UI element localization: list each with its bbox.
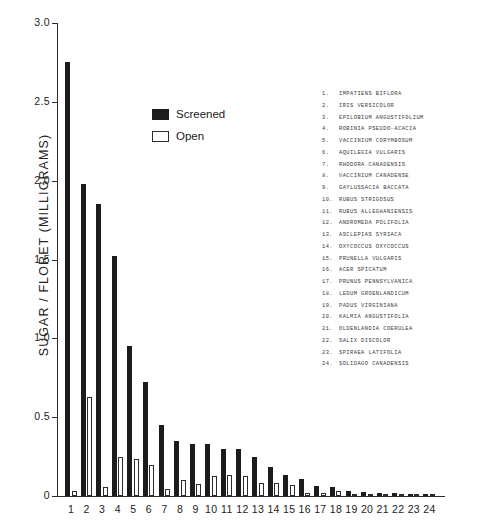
species-name: ROBINIA PSEUDO-ACACIA xyxy=(339,127,492,132)
bar-screened xyxy=(221,449,226,496)
species-number: 24. xyxy=(322,362,339,367)
y-tick-label: 1.5 xyxy=(26,253,50,265)
x-tick-label: 3 xyxy=(99,503,105,515)
bar-open xyxy=(87,397,92,496)
bar-screened xyxy=(314,486,319,496)
species-number: 14. xyxy=(322,245,339,250)
y-tick-label: 1.0 xyxy=(26,331,50,343)
legend-swatch-screened-icon xyxy=(152,109,169,120)
bar-screened xyxy=(174,441,179,496)
species-number: 23. xyxy=(322,351,339,356)
species-number: 6. xyxy=(322,151,339,156)
species-name: PADUS VIRGINIANA xyxy=(339,304,492,309)
y-tick-label: 2.0 xyxy=(26,174,50,186)
species-number: 10. xyxy=(322,198,339,203)
bar-open xyxy=(305,493,310,496)
legend-swatch-open-icon xyxy=(152,131,169,142)
bar-screened xyxy=(423,494,428,496)
species-name: SOLIDAGO CANADENSIS xyxy=(339,362,492,367)
bar-open xyxy=(165,489,170,496)
species-name: EPILOBIUM ANGUSTIFOLIUM xyxy=(339,116,492,121)
species-name: ASCLEPIAS SYRIACA xyxy=(339,233,492,238)
bar-screened xyxy=(392,493,397,496)
species-number: 3. xyxy=(322,116,339,121)
species-name: ANDROMEDA POLIFOLIA xyxy=(339,221,492,226)
bar-open xyxy=(414,494,419,496)
bar-open xyxy=(196,484,201,496)
bar-screened xyxy=(330,487,335,496)
species-number: 9. xyxy=(322,186,339,191)
species-name: VACCINIUM CANADENSE xyxy=(339,174,492,179)
bar-open xyxy=(274,483,279,496)
bar-screened xyxy=(159,425,164,496)
bar-screened xyxy=(143,382,148,496)
bar-screened xyxy=(205,444,210,496)
bar-group: 5 xyxy=(126,23,140,496)
bar-screened xyxy=(299,479,304,496)
species-key-row: 18.LEDUM GROENLANDICUM xyxy=(322,292,492,304)
species-key-row: 13.ASCLEPIAS SYRIACA xyxy=(322,233,492,245)
bar-group: 2 xyxy=(80,23,94,496)
x-tick-label: 6 xyxy=(146,503,152,515)
bar-group: 10 xyxy=(204,23,218,496)
species-number: 12. xyxy=(322,221,339,226)
bar-screened xyxy=(377,493,382,496)
bar-screened xyxy=(127,346,132,496)
x-tick-label: 23 xyxy=(408,503,420,515)
species-key-list: 1.IMPATIENS BIFLORA2.IRIS VERSICOLOR3.EP… xyxy=(322,92,492,374)
species-key-row: 10.RUBUS STRIGOSUS xyxy=(322,198,492,210)
species-number: 4. xyxy=(322,127,339,132)
species-name: VACCINIUM CORYMBOSUM xyxy=(339,139,492,144)
species-number: 18. xyxy=(322,292,339,297)
y-tick-label: 0.5 xyxy=(26,410,50,422)
bar-group: 7 xyxy=(158,23,172,496)
y-tick-label: 2.5 xyxy=(26,95,50,107)
species-number: 19. xyxy=(322,304,339,309)
bar-screened xyxy=(283,475,288,496)
species-name: AQUILEGIA VULGARIS xyxy=(339,151,492,156)
x-tick-label: 1 xyxy=(68,503,74,515)
species-name: IRIS VERSICOLOR xyxy=(339,104,492,109)
bar-open xyxy=(399,494,404,496)
x-tick-label: 17 xyxy=(314,503,326,515)
bar-open xyxy=(321,493,326,496)
species-name: SALIX DISCOLOR xyxy=(339,339,492,344)
x-tick-label: 14 xyxy=(267,503,279,515)
bar-screened xyxy=(268,467,273,496)
bar-group: 16 xyxy=(298,23,312,496)
bar-open xyxy=(290,485,295,496)
species-name: ACER SPICATUM xyxy=(339,268,492,273)
bar-group: 12 xyxy=(235,23,249,496)
species-number: 11. xyxy=(322,210,339,215)
bar-group: 14 xyxy=(267,23,281,496)
species-key-row: 2.IRIS VERSICOLOR xyxy=(322,104,492,116)
species-name: OLDENLANDIA COERULEA xyxy=(339,327,492,332)
species-name: KALMIA ANGUSTIFOLIA xyxy=(339,315,492,320)
bar-open xyxy=(352,494,357,496)
x-tick-label: 8 xyxy=(177,503,183,515)
bar-group: 1 xyxy=(64,23,78,496)
bar-screened xyxy=(361,492,366,496)
bar-screened xyxy=(408,494,413,496)
species-number: 17. xyxy=(322,280,339,285)
bar-open xyxy=(383,494,388,496)
species-key-row: 14.OXYCOCCUS OXYCOCCUS xyxy=(322,245,492,257)
legend-item-screened: Screened xyxy=(152,108,225,120)
species-number: 7. xyxy=(322,163,339,168)
species-number: 20. xyxy=(322,315,339,320)
legend: Screened Open xyxy=(152,108,225,152)
x-tick-label: 5 xyxy=(130,503,136,515)
legend-label-screened: Screened xyxy=(176,108,225,120)
x-tick-label: 24 xyxy=(423,503,435,515)
bar-screened xyxy=(65,62,70,496)
species-key-row: 9.GAYLUSSACIA BACCATA xyxy=(322,186,492,198)
bar-group: 9 xyxy=(189,23,203,496)
species-number: 22. xyxy=(322,339,339,344)
x-tick-label: 20 xyxy=(361,503,373,515)
bar-group: 15 xyxy=(282,23,296,496)
species-name: PRUNELLA VULGARIS xyxy=(339,257,492,262)
bar-screened xyxy=(96,204,101,496)
bar-open xyxy=(212,476,217,496)
figure-root: SUGAR / FLORET (MILLIGRAMS) 3.02.52.01.5… xyxy=(0,0,496,523)
species-key-row: 24.SOLIDAGO CANADENSIS xyxy=(322,362,492,374)
